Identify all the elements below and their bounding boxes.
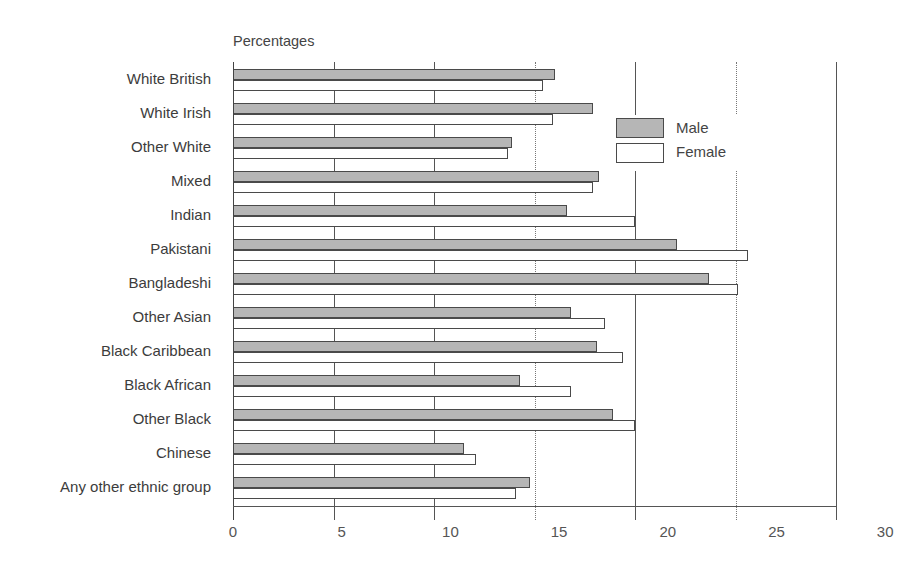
y-axis-line (233, 62, 234, 520)
legend-label-female: Female (676, 143, 726, 160)
bar-male-indian (233, 205, 567, 216)
bar-female-any-other-ethnic-group (233, 488, 516, 499)
bar-male-mixed (233, 171, 599, 182)
x-tick-label: 30 (877, 523, 894, 540)
x-tick-label: 20 (659, 523, 676, 540)
category-label: White British (127, 70, 211, 87)
bar-female-mixed (233, 182, 593, 193)
bar-male-white-irish (233, 103, 593, 114)
bar-male-black-african (233, 375, 520, 386)
bar-female-black-african (233, 386, 571, 397)
category-label: Mixed (171, 172, 211, 189)
x-tick-label: 5 (338, 523, 346, 540)
legend: Male Female (614, 115, 744, 171)
x-tick-label: 10 (442, 523, 459, 540)
category-label: White Irish (140, 104, 211, 121)
bar-female-other-asian (233, 318, 605, 329)
category-label: Other White (131, 138, 211, 155)
bar-male-any-other-ethnic-group (233, 477, 530, 488)
category-label: Other Asian (133, 308, 211, 325)
horizontal-bar-chart: Percentages White BritishWhite IrishOthe… (0, 0, 919, 572)
bar-female-pakistani (233, 250, 748, 261)
bar-male-other-black (233, 409, 613, 420)
bar-male-black-caribbean (233, 341, 597, 352)
bar-female-indian (233, 216, 635, 227)
category-label: Black Caribbean (101, 342, 211, 359)
x-tick-label: 25 (768, 523, 785, 540)
bar-female-other-white (233, 148, 508, 159)
bar-male-pakistani (233, 239, 677, 250)
bar-female-black-caribbean (233, 352, 623, 363)
category-label: Pakistani (150, 240, 211, 257)
bar-male-chinese (233, 443, 464, 454)
legend-swatch-female (616, 143, 664, 163)
bar-female-other-black (233, 420, 635, 431)
category-label: Any other ethnic group (60, 478, 211, 495)
category-label: Indian (170, 206, 211, 223)
gridline-30 (836, 62, 837, 520)
category-label: Other Black (133, 410, 211, 427)
bar-male-other-asian (233, 307, 571, 318)
bar-female-white-irish (233, 114, 553, 125)
category-label: Chinese (156, 444, 211, 461)
bar-male-other-white (233, 137, 512, 148)
legend-label-male: Male (676, 119, 709, 136)
x-tick-label: 0 (229, 523, 237, 540)
legend-swatch-male (616, 118, 664, 138)
x-tick-label: 15 (551, 523, 568, 540)
category-label: Bangladeshi (128, 274, 211, 291)
x-axis-line (233, 506, 836, 507)
plot-area (233, 62, 836, 506)
bar-male-white-british (233, 69, 555, 80)
bar-female-chinese (233, 454, 476, 465)
bar-female-bangladeshi (233, 284, 738, 295)
bar-male-bangladeshi (233, 273, 709, 284)
bar-female-white-british (233, 80, 543, 91)
category-label: Black African (124, 376, 211, 393)
unit-label: Percentages (233, 33, 314, 49)
